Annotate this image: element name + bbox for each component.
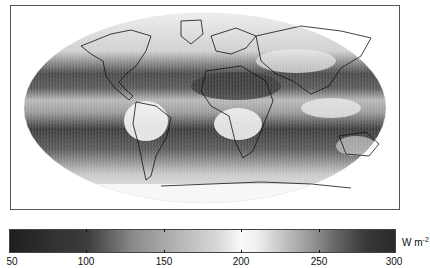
colorbar-label-250: 250 (311, 256, 328, 267)
colorbar (9, 229, 396, 253)
figure-title-cutoff (0, 0, 430, 2)
colorbar-tick-200 (241, 229, 242, 253)
colorbar-label-150: 150 (156, 256, 173, 267)
colorbar-label-300: 300 (386, 256, 403, 267)
colorbar-tick-100 (86, 229, 87, 253)
colorbar-label-200: 200 (233, 256, 250, 267)
colorbar-label-100: 100 (78, 256, 95, 267)
colorbar-label-50: 50 (6, 256, 17, 267)
units-exponent: -2 (423, 236, 429, 243)
colorbar-tick-250 (319, 229, 320, 253)
map-frame (10, 5, 400, 210)
flux-field (11, 6, 400, 210)
world-map (11, 6, 400, 210)
colorbar-tick-150 (164, 229, 165, 253)
colorbar-units: W m-2 (402, 236, 429, 248)
units-base: W m (402, 237, 423, 248)
